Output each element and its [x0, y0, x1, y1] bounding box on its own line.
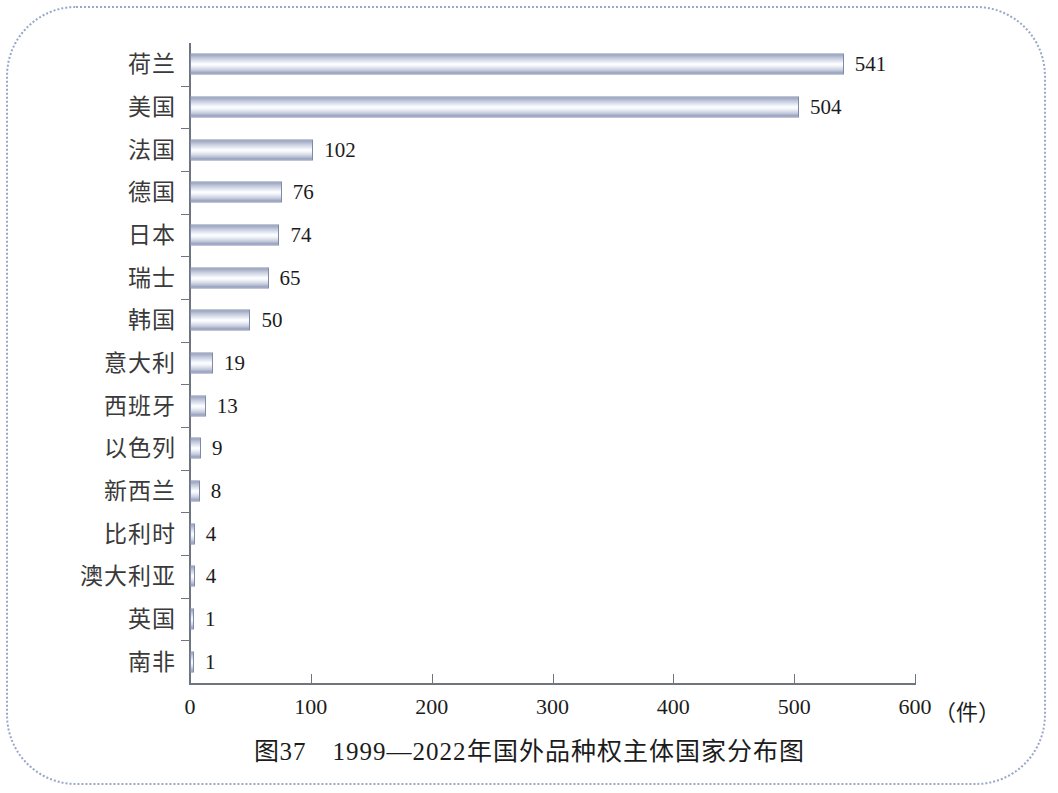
bar: [190, 438, 201, 459]
x-axis-unit-label: （件）: [934, 694, 1000, 726]
bar: [190, 608, 194, 629]
bar-category-label: 澳大利亚: [80, 565, 176, 588]
bar-category-label: 英国: [128, 607, 176, 630]
bar-category-label: 瑞士: [128, 266, 176, 289]
bar-value-label: 65: [280, 267, 301, 288]
bar-value-label: 8: [211, 480, 222, 501]
y-axis-tick: [181, 342, 190, 343]
bar-value-label: 50: [261, 310, 282, 331]
bar-row: 瑞士65: [190, 256, 915, 299]
bar-row: 荷兰541: [190, 43, 915, 86]
bar-row: 比利时4: [190, 512, 915, 555]
figure-container: 荷兰541美国504法国102德国76日本74瑞士65韩国50意大利19西班牙1…: [0, 0, 1058, 793]
bar-value-label: 76: [293, 182, 314, 203]
bar: [190, 224, 279, 245]
bar-value-label: 9: [212, 438, 223, 459]
y-axis-tick: [181, 171, 190, 172]
bar-row: 法国102: [190, 128, 915, 171]
bar: [190, 182, 282, 203]
y-axis-tick: [181, 598, 190, 599]
bar-row: 以色列9: [190, 427, 915, 470]
x-axis-tick: [311, 674, 312, 683]
bar-category-label: 比利时: [104, 522, 176, 545]
y-axis-tick: [181, 86, 190, 87]
x-axis-line: [189, 683, 916, 685]
bar-category-label: 美国: [128, 95, 176, 118]
x-axis-tick-label: 500: [778, 694, 811, 720]
bar-value-label: 1: [205, 651, 216, 672]
bar-category-label: 以色列: [104, 437, 176, 460]
bar-category-label: 荷兰: [128, 53, 176, 76]
bar-row: 澳大利亚4: [190, 555, 915, 598]
bar-value-label: 102: [324, 139, 356, 160]
figure-caption: 图37 1999—2022年国外品种权主体国家分布图: [0, 731, 1058, 767]
x-axis-tick-label: 300: [536, 694, 569, 720]
bar-value-label: 74: [290, 224, 311, 245]
bar-value-label: 504: [810, 96, 842, 117]
bar-category-label: 西班牙: [104, 394, 176, 417]
bar: [190, 96, 799, 117]
bar-row: 新西兰8: [190, 470, 915, 513]
x-axis-tick-label: 200: [415, 694, 448, 720]
bar-category-label: 韩国: [128, 309, 176, 332]
bar: [190, 395, 206, 416]
bar: [190, 310, 250, 331]
y-axis-tick: [181, 299, 190, 300]
bar-row: 德国76: [190, 171, 915, 214]
bar-category-label: 意大利: [104, 351, 176, 374]
bar-row: 韩国50: [190, 299, 915, 342]
x-axis-tick-label: 600: [899, 694, 932, 720]
bar: [190, 480, 200, 501]
bar-category-label: 南非: [128, 650, 176, 673]
y-axis-tick: [181, 256, 190, 257]
bar: [190, 523, 195, 544]
bar-category-label: 日本: [128, 223, 176, 246]
x-axis-tick: [673, 674, 674, 683]
y-axis-tick: [181, 214, 190, 215]
bar-row: 日本74: [190, 214, 915, 257]
y-axis-tick: [181, 128, 190, 129]
bar: [190, 566, 195, 587]
bar: [190, 651, 194, 672]
x-axis-tick-label: 0: [185, 694, 196, 720]
bar-value-label: 19: [224, 352, 245, 373]
bar: [190, 139, 313, 160]
x-axis-tick: [915, 674, 916, 683]
x-axis-tick-label: 400: [657, 694, 690, 720]
x-axis-tick: [794, 674, 795, 683]
bar-value-label: 4: [206, 566, 217, 587]
bar-value-label: 13: [217, 395, 238, 416]
chart-plot-area: 荷兰541美国504法国102德国76日本74瑞士65韩国50意大利19西班牙1…: [190, 43, 915, 683]
y-axis-tick: [181, 512, 190, 513]
bar: [190, 352, 213, 373]
y-axis-tick: [181, 427, 190, 428]
bar-category-label: 法国: [128, 138, 176, 161]
bar-category-label: 新西兰: [104, 479, 176, 502]
x-axis-tick-label: 100: [294, 694, 327, 720]
bar-value-label: 1: [205, 608, 216, 629]
x-axis-tick: [432, 674, 433, 683]
bar-row: 英国1: [190, 598, 915, 641]
bar-row: 西班牙13: [190, 384, 915, 427]
y-axis-tick: [181, 384, 190, 385]
x-axis-tick: [553, 674, 554, 683]
y-axis-tick: [181, 640, 190, 641]
bar-row: 美国504: [190, 86, 915, 129]
bar-value-label: 541: [855, 54, 887, 75]
y-axis-tick: [181, 555, 190, 556]
bar-value-label: 4: [206, 523, 217, 544]
bar: [190, 267, 269, 288]
bar-category-label: 德国: [128, 181, 176, 204]
y-axis-tick: [181, 470, 190, 471]
bar: [190, 54, 844, 75]
bar-row: 意大利19: [190, 342, 915, 385]
